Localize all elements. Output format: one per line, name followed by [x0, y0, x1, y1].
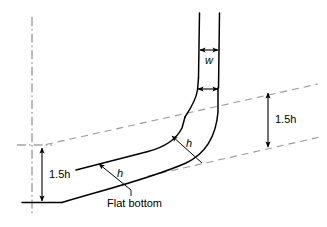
h-left-label: h	[117, 167, 123, 179]
height-left-label: 1.5h	[49, 168, 70, 180]
inner-vertical-wall	[199, 13, 200, 78]
outer-vertical-wall	[219, 13, 220, 88]
w-label: w	[205, 54, 214, 66]
diagram-canvas: w h h 1.5h 1.5h Flat bottom	[0, 0, 327, 227]
outer-wall-curve	[62, 88, 218, 203]
h-left-dimension-arrow	[99, 164, 131, 190]
inner-wall-bend	[185, 78, 199, 117]
figure-container: w h h 1.5h 1.5h Flat bottom	[0, 0, 327, 227]
h-mid-label: h	[186, 137, 192, 149]
inner-wall-lower-segment	[76, 117, 185, 170]
lower-dashed-reference-line	[148, 137, 320, 176]
height-right-label: 1.5h	[275, 113, 296, 125]
flat-bottom-label: Flat bottom	[107, 197, 162, 209]
